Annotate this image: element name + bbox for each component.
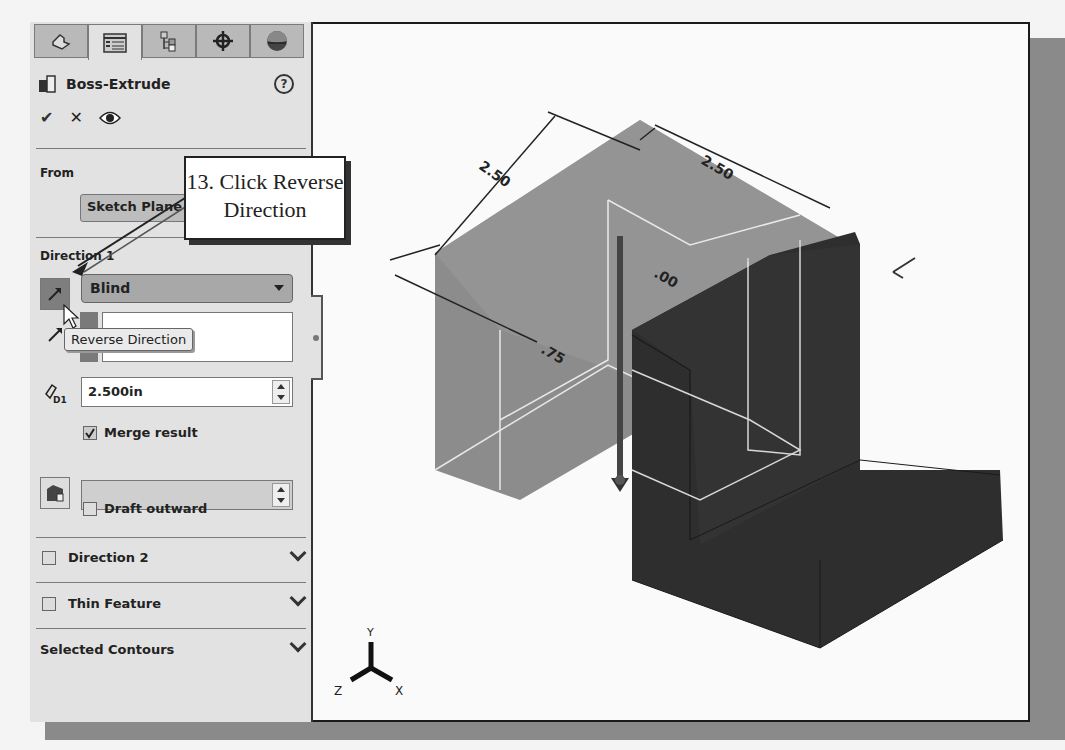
direction2-chevron-down-icon[interactable] [290,545,307,562]
graphics-viewport[interactable]: 2.50 2.50 .75 .00 Y Z X [313,24,1028,720]
svg-text:Y: Y [366,626,374,639]
direction2-checkbox[interactable] [42,551,56,565]
reverse-direction-tooltip: Reverse Direction [64,328,193,351]
draft-outward-checkbox[interactable] [83,502,97,516]
depth-dimension-icon: D1 [42,380,68,406]
depth-spinner[interactable] [272,380,290,404]
divider [36,582,306,583]
draft-icon [45,483,65,503]
direction2-label[interactable]: Direction 2 [68,550,149,565]
draft-toggle-button[interactable] [40,477,70,509]
divider [36,628,306,629]
spin-down-icon[interactable] [277,498,285,503]
spin-up-icon[interactable] [277,384,285,389]
thin-feature-label[interactable]: Thin Feature [68,596,161,611]
merge-result-label: Merge result [104,425,198,440]
merge-result-checkbox[interactable] [83,426,97,440]
selected-contours-chevron-down-icon[interactable] [290,636,307,653]
divider [36,537,306,538]
thin-feature-chevron-down-icon[interactable] [290,590,307,607]
spin-down-icon[interactable] [277,395,285,400]
handle-dot-icon [313,335,319,341]
callout-line-2: Direction [186,196,344,224]
reference-triad-icon: Y Z X [334,626,403,698]
spin-up-icon[interactable] [277,487,285,492]
orientation-arrows-icon [893,258,915,278]
callout-line-1: 13. Click Reverse [186,168,344,196]
svg-text:Z: Z [334,684,342,698]
svg-text:D1: D1 [53,395,67,405]
draft-angle-spinner[interactable] [272,483,290,507]
depth-value: 2.500in [88,384,143,399]
thin-feature-checkbox[interactable] [42,597,56,611]
depth-input[interactable]: 2.500in [81,377,293,407]
svg-text:X: X [395,684,403,698]
instruction-callout: 13. Click Reverse Direction [184,156,346,240]
draft-outward-label: Draft outward [104,501,207,516]
selected-contours-label[interactable]: Selected Contours [40,642,174,657]
checkmark-icon [84,427,96,439]
